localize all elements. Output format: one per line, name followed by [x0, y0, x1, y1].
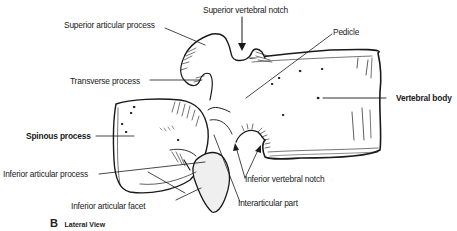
- label-inferior-articular-process: Inferior articular process: [3, 168, 88, 179]
- label-pedicle: Pedicle: [333, 26, 359, 37]
- view-caption: B Lateral View: [50, 217, 105, 229]
- vertebra-illustration: [0, 0, 457, 231]
- label-interarticular-part: Interarticular part: [238, 197, 298, 208]
- label-inferior-articular-facet: Inferior articular facet: [71, 200, 145, 211]
- view-title: Lateral View: [64, 221, 105, 228]
- label-inferior-vertebral-notch: Inferior vertebral notch: [245, 173, 324, 184]
- pedicle-shape: [185, 34, 265, 61]
- inferior-vertebral-notch-shape: [236, 130, 265, 142]
- vertebra-diagram: Superior vertebral notch Superior articu…: [0, 0, 457, 231]
- view-letter: B: [50, 217, 58, 229]
- label-transverse-process: Transverse process: [70, 75, 140, 86]
- vertebral-body-shape: [250, 49, 381, 159]
- label-spinous-process: Spinous process: [26, 130, 91, 141]
- label-superior-vertebral-notch: Superior vertebral notch: [203, 4, 288, 15]
- label-superior-articular-process: Superior articular process: [64, 19, 155, 30]
- label-vertebral-body: Vertebral body: [396, 92, 452, 103]
